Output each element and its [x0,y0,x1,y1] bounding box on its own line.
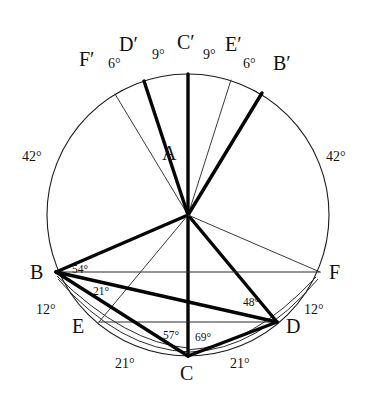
arc-label-left-42: 42° [22,150,42,164]
segment-A-F [188,215,320,272]
point-label-E: E [72,316,84,336]
point-label-D: D [286,316,300,336]
point-label-B-prime: B′ [273,53,291,73]
angle-label-at-B-54: 54° [72,264,88,276]
angle-label-at-B-21: 21° [93,286,109,298]
point-label-F: F [329,262,340,282]
angle-label-at-C-57: 57° [163,330,179,342]
arc-label-top-9-left: 9° [152,48,165,62]
point-label-C-prime: C′ [177,32,195,52]
point-label-B: B [30,262,43,282]
arc-label-top-9-right: 9° [203,48,216,62]
geometry-figure: A B C D E F B′ C′ D′ E′ F′ 42° 42° 6° 9°… [0,0,378,406]
segment-A-Eprime [188,80,231,215]
arc-label-left-12: 12° [36,303,56,317]
arc-label-top-6-left: 6° [108,57,121,71]
segment-B-C [56,272,188,356]
angle-label-at-D-48: 48° [243,297,259,309]
point-label-C: C [180,363,193,383]
arc-label-bottom-21-left: 21° [115,357,135,371]
arc-label-top-6-right: 6° [243,57,256,71]
point-label-D-prime: D′ [119,34,138,54]
angle-label-at-C-69: 69° [195,332,211,344]
point-label-A: A [162,143,176,163]
arc-label-bottom-21-right: 21° [230,357,250,371]
arc-label-right-42: 42° [326,150,346,164]
segment-A-Fprime [115,94,188,215]
segment-A-Bprime [188,93,262,215]
point-label-E-prime: E′ [225,34,242,54]
point-label-F-prime: F′ [79,49,95,69]
arc-label-right-12: 12° [304,303,324,317]
geometry-canvas [0,0,378,406]
